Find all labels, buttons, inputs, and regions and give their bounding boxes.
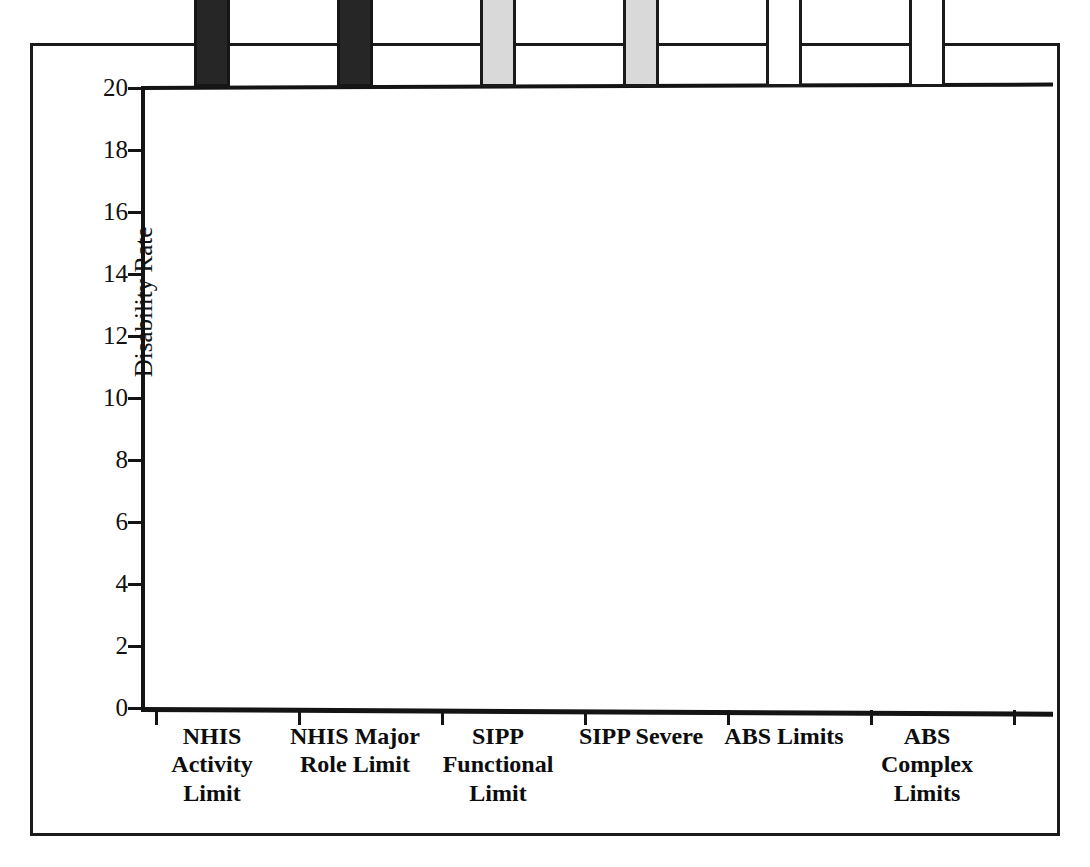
x-axis-label-line: NHIS Major bbox=[290, 723, 420, 749]
y-axis-tick bbox=[128, 149, 141, 152]
x-axis-label-line: ABS bbox=[904, 723, 951, 749]
bar-3 bbox=[480, 0, 516, 87]
y-axis-tick-label: 10 bbox=[82, 385, 128, 410]
y-axis-tick bbox=[128, 707, 141, 710]
x-axis-label-line: NHIS bbox=[183, 723, 242, 749]
y-axis-tick-label: 6 bbox=[82, 509, 128, 534]
y-axis-tick bbox=[128, 645, 141, 648]
x-axis-label-6: ABSComplexLimits bbox=[856, 722, 999, 807]
plot-area: 02468101214161820 Disability Rate bbox=[141, 88, 1053, 708]
x-axis-label-line: Functional bbox=[443, 751, 554, 777]
y-axis-tick bbox=[128, 521, 141, 524]
y-axis-tick-label: 0 bbox=[82, 695, 128, 720]
y-axis-tick-label: 20 bbox=[82, 75, 128, 100]
x-axis-label-line: Complex bbox=[881, 751, 973, 777]
x-axis-label-2: NHIS MajorRole Limit bbox=[284, 722, 427, 779]
y-axis-tick-label: 16 bbox=[82, 199, 128, 224]
x-axis-label-line: SIPP Severe bbox=[579, 723, 703, 749]
y-axis-tick bbox=[128, 87, 141, 90]
x-axis-label-line: Limit bbox=[469, 780, 526, 806]
y-axis-tick-label: 12 bbox=[82, 323, 128, 348]
y-axis-tick-label: 8 bbox=[82, 447, 128, 472]
y-axis-tick-label: 14 bbox=[82, 261, 128, 286]
y-axis-tick bbox=[128, 583, 141, 586]
x-axis-label-1: NHISActivityLimit bbox=[141, 722, 284, 807]
bar-6 bbox=[909, 0, 945, 87]
y-axis-tick-label: 4 bbox=[82, 571, 128, 596]
bar-1 bbox=[194, 0, 230, 87]
x-axis-label-line: ABS Limits bbox=[724, 723, 843, 749]
x-axis-label-3: SIPPFunctionalLimit bbox=[427, 722, 570, 807]
y-axis-tick bbox=[128, 459, 141, 462]
y-axis-tick-labels: 02468101214161820 bbox=[71, 88, 128, 708]
bar-4 bbox=[623, 0, 659, 87]
y-axis-tick-label: 2 bbox=[82, 633, 128, 658]
y-axis-title: Disability Rate bbox=[130, 187, 158, 417]
x-axis-label-5: ABS Limits bbox=[713, 722, 856, 750]
x-axis-baseline bbox=[141, 707, 1053, 717]
x-axis-label-line: SIPP bbox=[472, 723, 524, 749]
figure-frame: 02468101214161820 Disability Rate NHISAc… bbox=[30, 43, 1060, 836]
y-axis-tick-label: 18 bbox=[82, 137, 128, 162]
x-axis-label-line: Activity bbox=[171, 751, 252, 777]
x-axis-label-line: Role Limit bbox=[300, 751, 410, 777]
bar-5 bbox=[766, 0, 802, 87]
x-axis-category-labels: NHISActivityLimitNHIS MajorRole LimitSIP… bbox=[141, 722, 1053, 832]
bar-2 bbox=[337, 0, 373, 87]
x-axis-label-line: Limit bbox=[183, 780, 240, 806]
x-axis-label-line: Limits bbox=[894, 780, 961, 806]
x-axis-label-4: SIPP Severe bbox=[570, 722, 713, 750]
